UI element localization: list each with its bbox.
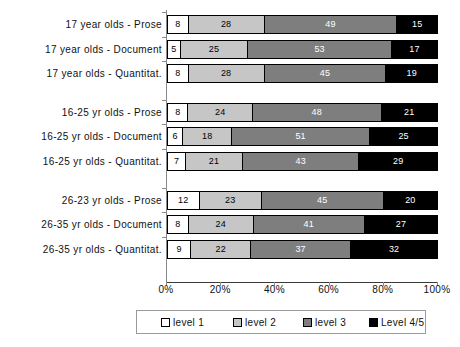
bar-segment-lv2: 28 bbox=[189, 64, 265, 83]
bar-segment-value: 12 bbox=[178, 196, 188, 205]
legend-item-lv3[interactable]: level 3 bbox=[303, 317, 346, 328]
bar-segment-value: 43 bbox=[295, 157, 305, 166]
bar-segment-value: 53 bbox=[314, 45, 324, 54]
bar-segment-value: 5 bbox=[171, 45, 176, 54]
bar-segment-lv1: 8 bbox=[167, 64, 189, 83]
bar-segment-value: 9 bbox=[177, 245, 182, 254]
bar-segment-lv4: 27 bbox=[365, 215, 438, 234]
legend-swatch-icon bbox=[233, 318, 242, 327]
x-axis-tick-label: 20% bbox=[210, 284, 231, 296]
bar-segment-value: 23 bbox=[225, 196, 235, 205]
x-axis-line bbox=[166, 282, 437, 283]
bar-segment-lv3: 48 bbox=[253, 103, 382, 122]
bar-segment-lv1: 12 bbox=[167, 191, 200, 210]
legend-item-lv1[interactable]: level 1 bbox=[161, 317, 204, 328]
bar-segment-value: 24 bbox=[215, 220, 225, 229]
bar-segment-lv1: 6 bbox=[167, 127, 183, 146]
bar-segment-lv3: 45 bbox=[262, 191, 384, 210]
bar-segment-value: 32 bbox=[389, 245, 399, 254]
x-axis-tick-label: 40% bbox=[264, 284, 285, 296]
bar-segment-lv4: 29 bbox=[359, 152, 438, 171]
bar-segment-lv2: 28 bbox=[189, 15, 265, 34]
bar-row: 8244127 bbox=[167, 215, 438, 234]
y-axis-tick bbox=[162, 100, 166, 101]
bar-segment-lv2: 21 bbox=[186, 152, 243, 171]
bar-row: 12234520 bbox=[167, 191, 438, 210]
bar-segment-lv1: 8 bbox=[167, 215, 189, 234]
legend-label: level 1 bbox=[173, 317, 204, 328]
bar-segment-value: 18 bbox=[202, 132, 212, 141]
x-axis-tick-label: 60% bbox=[318, 284, 339, 296]
bar-segment-lv2: 23 bbox=[200, 191, 262, 210]
bar-segment-lv2: 18 bbox=[183, 127, 232, 146]
legend-swatch-icon bbox=[303, 318, 312, 327]
bar-segment-lv4: 32 bbox=[351, 240, 438, 259]
category-label: 16-25 yr olds - Quantitat. bbox=[0, 156, 162, 167]
bar-segment-lv4: 21 bbox=[382, 103, 438, 122]
x-axis-tick-labels: 0%20%40%60%80%100% bbox=[166, 284, 437, 298]
bar-segment-value: 8 bbox=[175, 20, 180, 29]
bar-segment-lv3: 37 bbox=[251, 240, 351, 259]
category-label: 26-35 yr olds - Document bbox=[0, 219, 162, 230]
x-axis-tick-label: 100% bbox=[424, 284, 451, 296]
bar-segment-value: 22 bbox=[215, 245, 225, 254]
bar-segment-value: 24 bbox=[215, 108, 225, 117]
legend-label: level 2 bbox=[245, 317, 276, 328]
y-axis-tick bbox=[162, 212, 166, 213]
y-axis-tick bbox=[162, 149, 166, 150]
bar-segment-lv3: 49 bbox=[265, 15, 398, 34]
category-label: 16-25 yr olds - Document bbox=[0, 131, 162, 142]
bar-segment-lv1: 5 bbox=[167, 40, 181, 59]
bar-segment-lv1: 8 bbox=[167, 15, 189, 34]
y-axis-tick bbox=[162, 37, 166, 38]
bar-segment-value: 19 bbox=[407, 69, 417, 78]
bar-segment-value: 49 bbox=[325, 20, 335, 29]
category-label: 17 year olds - Document bbox=[0, 44, 162, 55]
category-label: 16-25 yr olds - Prose bbox=[0, 107, 162, 118]
category-label: 26-35 yr olds - Quantitat. bbox=[0, 244, 162, 255]
x-axis-tick-label: 0% bbox=[158, 284, 173, 296]
stacked-bar-chart: 17 year olds - Prose17 year olds - Docum… bbox=[0, 0, 460, 347]
bar-segment-value: 8 bbox=[175, 108, 180, 117]
bar-segment-value: 25 bbox=[398, 132, 408, 141]
bar-segment-lv4: 15 bbox=[397, 15, 438, 34]
category-label: 26-23 yr olds - Prose bbox=[0, 195, 162, 206]
y-axis-tick bbox=[162, 12, 166, 13]
bar-segment-value: 41 bbox=[304, 220, 314, 229]
bar-segment-value: 15 bbox=[412, 20, 422, 29]
bar-segment-value: 29 bbox=[393, 157, 403, 166]
bar-segment-value: 7 bbox=[174, 157, 179, 166]
bar-segment-value: 25 bbox=[209, 45, 219, 54]
bar-segment-value: 45 bbox=[317, 196, 327, 205]
y-axis-tick bbox=[162, 188, 166, 189]
legend-item-lv4[interactable]: Level 4/5 bbox=[369, 317, 424, 328]
x-axis-tick-label: 80% bbox=[372, 284, 393, 296]
bar-segment-lv3: 53 bbox=[248, 40, 392, 59]
category-label: 17 year olds - Prose bbox=[0, 19, 162, 30]
legend-item-lv2[interactable]: level 2 bbox=[233, 317, 276, 328]
bar-segment-lv4: 20 bbox=[384, 191, 438, 210]
bar-segment-value: 28 bbox=[221, 20, 231, 29]
bar-segment-value: 20 bbox=[405, 196, 415, 205]
plot-area: 8284915525531782845198244821618512572143… bbox=[166, 10, 437, 282]
bar-segment-lv2: 24 bbox=[189, 215, 254, 234]
y-axis-tick bbox=[162, 237, 166, 238]
bar-row: 8284915 bbox=[167, 15, 438, 34]
bar-segment-value: 17 bbox=[409, 45, 419, 54]
bar-segment-value: 21 bbox=[209, 157, 219, 166]
bar-segment-lv4: 17 bbox=[392, 40, 438, 59]
y-axis-tick bbox=[162, 124, 166, 125]
bar-segment-lv2: 25 bbox=[181, 40, 249, 59]
chart-legend: level 1level 2level 3Level 4/5 bbox=[136, 310, 426, 334]
bar-row: 6185125 bbox=[167, 127, 438, 146]
bar-segment-lv1: 7 bbox=[167, 152, 186, 171]
bar-segment-value: 45 bbox=[320, 69, 330, 78]
bar-segment-value: 8 bbox=[175, 220, 180, 229]
bar-segment-value: 27 bbox=[396, 220, 406, 229]
legend-swatch-icon bbox=[369, 318, 378, 327]
bar-row: 7214329 bbox=[167, 152, 438, 171]
bar-segment-lv3: 45 bbox=[265, 64, 387, 83]
legend-label: Level 4/5 bbox=[381, 317, 424, 328]
bar-segment-lv4: 19 bbox=[386, 64, 437, 83]
legend-swatch-icon bbox=[161, 318, 170, 327]
